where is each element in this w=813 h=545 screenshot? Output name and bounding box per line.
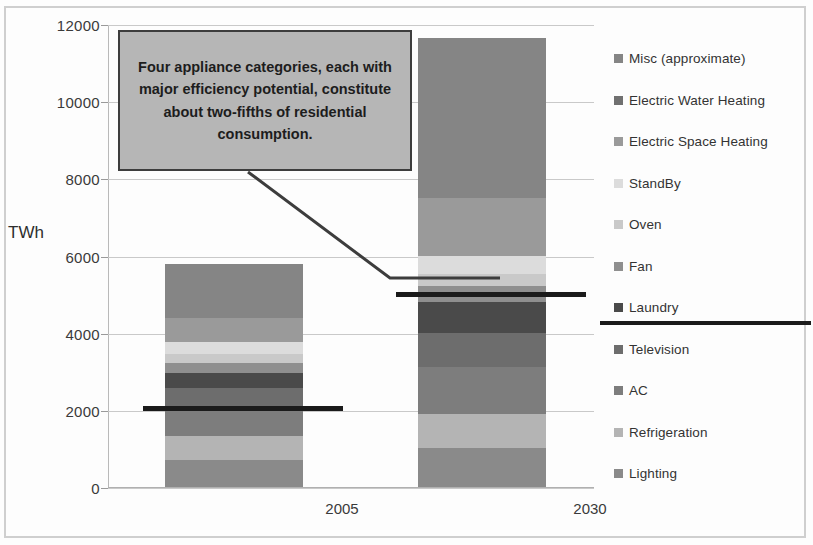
legend-item-label: Lighting: [629, 466, 677, 481]
legend-swatch-icon: [614, 220, 623, 229]
y-axis-tick-label: 4000: [65, 325, 100, 342]
reference-line-2030: [396, 292, 586, 297]
bar-segment[interactable]: [418, 302, 546, 333]
legend-item[interactable]: Fan: [614, 246, 810, 288]
chart-legend: Misc (approximate)Electric Water Heating…: [614, 38, 810, 495]
stacked-bar-2030[interactable]: [418, 38, 546, 487]
bar-segment[interactable]: [418, 274, 546, 287]
legend-item[interactable]: Misc (approximate): [614, 38, 810, 80]
legend-item-label: Refrigeration: [629, 425, 708, 440]
bar-segment[interactable]: [165, 342, 303, 354]
legend-item-label: Fan: [629, 259, 653, 274]
legend-item-label: Television: [629, 342, 689, 357]
bar-segment[interactable]: [165, 373, 303, 388]
legend-swatch-icon: [614, 179, 623, 188]
bar-segment[interactable]: [165, 436, 303, 460]
legend-item[interactable]: StandBy: [614, 163, 810, 205]
bar-segment[interactable]: [418, 198, 546, 256]
bar-segment[interactable]: [418, 333, 546, 368]
y-axis-tick-label: 6000: [65, 248, 100, 265]
reference-line-2005: [143, 406, 343, 411]
legend-swatch-icon: [614, 386, 623, 395]
gridline: [108, 25, 594, 26]
legend-item[interactable]: Refrigeration: [614, 412, 810, 454]
bar-segment[interactable]: [165, 318, 303, 342]
bar-segment[interactable]: [165, 363, 303, 373]
y-axis-tick: [101, 179, 108, 180]
legend-item-label: Electric Space Heating: [629, 134, 768, 149]
legend-item[interactable]: Oven: [614, 204, 810, 246]
bar-segment[interactable]: [418, 414, 546, 449]
legend-swatch-icon: [614, 137, 623, 146]
y-axis-tick-label: 8000: [65, 171, 100, 188]
legend-item-label: StandBy: [629, 176, 681, 191]
legend-swatch-icon: [614, 96, 623, 105]
legend-item[interactable]: Electric Water Heating: [614, 80, 810, 122]
legend-swatch-icon: [614, 262, 623, 271]
legend-item-label: Misc (approximate): [629, 51, 746, 66]
y-axis-tick-label: 0: [91, 480, 100, 497]
legend-item[interactable]: Electric Space Heating: [614, 121, 810, 163]
y-axis-tick: [101, 488, 108, 489]
bar-segment[interactable]: [165, 354, 303, 363]
y-axis-tick: [101, 334, 108, 335]
y-axis-tick: [101, 25, 108, 26]
bar-segment[interactable]: [418, 38, 546, 199]
legend-swatch-icon: [614, 428, 623, 437]
annotation-text: Four appliance categories, each with maj…: [120, 56, 410, 144]
legend-item[interactable]: Lighting: [614, 453, 810, 495]
gridline: [108, 488, 594, 489]
legend-item[interactable]: Television: [614, 329, 810, 371]
bar-segment[interactable]: [165, 408, 303, 436]
legend-item-label: Oven: [629, 217, 662, 232]
y-axis-tick: [101, 102, 108, 103]
bar-segment[interactable]: [418, 367, 546, 413]
y-axis-tick-label: 2000: [65, 402, 100, 419]
y-axis-tick-labels: 020004000600080001000012000: [0, 25, 100, 488]
stacked-bar-2005[interactable]: [165, 263, 303, 487]
legend-swatch-icon: [614, 345, 623, 354]
y-axis-tick-label: 12000: [57, 17, 100, 34]
bar-segment[interactable]: [165, 264, 303, 318]
x-axis-label-2030: 2030: [573, 500, 606, 517]
legend-swatch-icon: [614, 54, 623, 63]
y-axis-tick-label: 10000: [57, 94, 100, 111]
bar-segment[interactable]: [165, 388, 303, 408]
legend-swatch-icon: [614, 303, 623, 312]
bar-segment[interactable]: [165, 460, 303, 487]
legend-item-label: AC: [629, 383, 648, 398]
y-axis-tick: [101, 411, 108, 412]
annotation-callout: Four appliance categories, each with maj…: [118, 30, 412, 171]
y-axis-tick: [101, 257, 108, 258]
legend-swatch-icon: [614, 469, 623, 478]
chart-page: TWh 020004000600080001000012000 2005 203…: [0, 0, 813, 545]
bar-segment[interactable]: [418, 256, 546, 273]
bar-segment[interactable]: [418, 448, 546, 487]
legend-item[interactable]: AC: [614, 370, 810, 412]
legend-divider-line: [600, 321, 811, 325]
legend-item-label: Electric Water Heating: [629, 93, 765, 108]
x-axis-label-2005: 2005: [325, 500, 358, 517]
legend-item-label: Laundry: [629, 300, 679, 315]
